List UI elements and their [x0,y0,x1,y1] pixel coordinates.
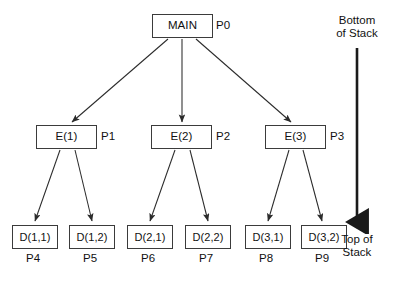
edge-e1-d11 [35,150,60,221]
node-e3-label: E(3) [284,131,306,143]
node-main[interactable]: MAIN [152,14,213,38]
node-d31[interactable]: D(3,1) [245,225,291,249]
node-d11-label: D(1,1) [19,232,50,243]
process-label-p3: P3 [330,131,344,143]
edge-main-e1 [72,39,168,122]
edge-e2-d22 [190,150,208,221]
process-label-p2: P2 [216,131,230,143]
node-d21-label: D(2,1) [134,232,165,243]
process-label-p0: P0 [216,20,230,32]
process-label-p6: P6 [141,253,155,265]
node-d22[interactable]: D(2,2) [185,225,231,249]
edge-e1-d12 [75,150,92,221]
edge-e3-d32 [303,150,322,221]
edge-main-e3 [196,39,291,122]
edge-e3-d31 [268,150,289,221]
edge-e2-d21 [150,150,175,221]
node-e2[interactable]: E(2) [151,125,212,149]
process-label-p8: P8 [259,253,273,265]
node-d22-label: D(2,2) [192,232,223,243]
node-main-label: MAIN [168,20,197,32]
process-label-p5: P5 [83,253,97,265]
process-label-p7: P7 [199,253,213,265]
node-d12-label: D(1,2) [76,232,107,243]
node-e1-label: E(1) [55,131,77,143]
process-label-p4: P4 [26,253,40,265]
node-d12[interactable]: D(1,2) [69,225,115,249]
node-d11[interactable]: D(1,1) [12,225,58,249]
stack-top-label: Top of Stack [312,233,402,259]
process-tree-diagram: MAIN P0 E(1) P1 E(2) P2 E(3) P3 D(1,1) D… [0,0,414,285]
node-e3[interactable]: E(3) [265,125,326,149]
node-d31-label: D(3,1) [252,232,283,243]
process-label-p1: P1 [101,131,115,143]
node-e1[interactable]: E(1) [36,125,97,149]
node-e2-label: E(2) [170,131,192,143]
stack-bottom-label: Bottom of Stack [312,14,402,40]
node-d21[interactable]: D(2,1) [127,225,173,249]
